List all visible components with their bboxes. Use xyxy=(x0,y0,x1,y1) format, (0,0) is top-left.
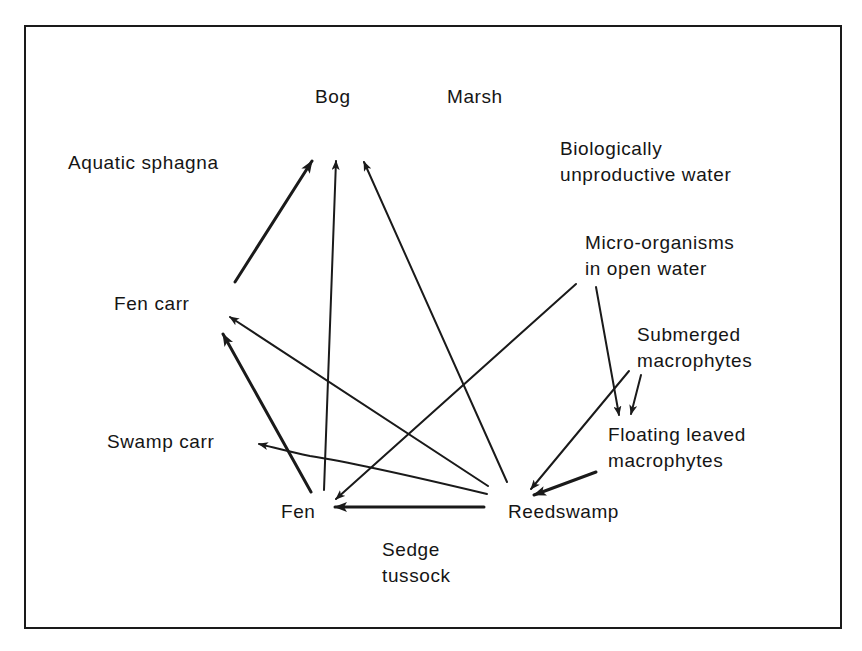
node-label: unproductive water xyxy=(560,162,731,188)
node-label: in open water xyxy=(585,256,734,282)
node-reedswamp: Reedswamp xyxy=(508,499,619,525)
arrow-submerged-to-floating xyxy=(631,375,641,414)
node-label: Swamp carr xyxy=(107,429,214,455)
arrow-reedswamp-to-fen-carr xyxy=(230,317,488,486)
node-label: tussock xyxy=(382,563,451,589)
node-label: macrophytes xyxy=(608,448,746,474)
node-label: Marsh xyxy=(447,84,503,110)
arrow-fen-to-bog xyxy=(324,161,336,490)
node-label: Submerged xyxy=(637,322,752,348)
node-micro-organisms-open-water: Micro-organisms in open water xyxy=(585,230,734,282)
node-label: Fen carr xyxy=(114,291,190,317)
node-bog: Bog xyxy=(315,84,351,110)
node-label: Floating leaved xyxy=(608,422,746,448)
node-label: Sedge xyxy=(382,537,451,563)
arrow-fen-to-fen-carr xyxy=(223,334,311,492)
node-marsh: Marsh xyxy=(447,84,503,110)
node-label: Fen xyxy=(281,499,316,525)
node-label: macrophytes xyxy=(637,348,752,374)
node-label: Biologically xyxy=(560,136,731,162)
arrow-fen-carr-to-bog xyxy=(235,161,312,282)
node-biologically-unproductive-water: Biologically unproductive water xyxy=(560,136,731,188)
node-fen: Fen xyxy=(281,499,316,525)
arrow-reedswamp-to-swamp-carr xyxy=(259,444,487,494)
arrow-reedswamp-to-bog xyxy=(364,162,507,482)
node-swamp-carr: Swamp carr xyxy=(107,429,214,455)
node-label: Aquatic sphagna xyxy=(68,150,219,176)
node-label: Micro-organisms xyxy=(585,230,734,256)
node-sedge-tussock: Sedge tussock xyxy=(382,537,451,589)
node-floating-leaved-macrophytes: Floating leaved macrophytes xyxy=(608,422,746,474)
node-submerged-macrophytes: Submerged macrophytes xyxy=(637,322,752,374)
node-fen-carr: Fen carr xyxy=(114,291,190,317)
node-aquatic-sphagna: Aquatic sphagna xyxy=(68,150,219,176)
arrow-micro-organisms-to-fen xyxy=(336,284,576,499)
node-label: Bog xyxy=(315,84,351,110)
node-label: Reedswamp xyxy=(508,499,619,525)
